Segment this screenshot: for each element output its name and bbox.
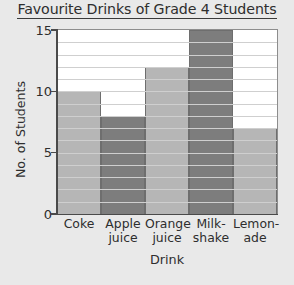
- y-tick-mark: [51, 213, 57, 215]
- plot-border-right: [277, 29, 278, 214]
- bar: [233, 128, 277, 214]
- plot-area: [57, 30, 277, 214]
- bar: [101, 116, 145, 214]
- bar: [145, 67, 189, 214]
- y-tick-label: 5: [4, 146, 52, 159]
- x-tick-label: Orangejuice: [145, 217, 189, 244]
- y-tick-mark: [51, 91, 57, 93]
- y-tick-label: 0: [4, 208, 52, 221]
- x-axis-title: Drink: [57, 252, 277, 267]
- x-axis-line: [56, 214, 278, 216]
- x-tick-label: Lemon-ade: [233, 217, 277, 244]
- bar: [57, 91, 101, 214]
- y-tick-mark: [51, 29, 57, 31]
- bar: [189, 30, 233, 214]
- y-tick-mark: [51, 152, 57, 154]
- chart-title-text: Favourite Drinks of Grade 4 Students: [17, 1, 276, 19]
- bar-series: [57, 30, 277, 214]
- bar-chart: Favourite Drinks of Grade 4 Students 051…: [0, 0, 294, 285]
- x-tick-label: Coke: [57, 217, 101, 231]
- x-tick-label: Milk-shake: [189, 217, 233, 244]
- y-axis-line: [56, 29, 58, 215]
- plot-border-top: [56, 29, 277, 30]
- y-tick-label: 15: [4, 24, 52, 37]
- x-tick-label: Applejuice: [101, 217, 145, 244]
- y-axis-title: No. of Students: [13, 70, 28, 190]
- y-tick-label: 10: [4, 85, 52, 98]
